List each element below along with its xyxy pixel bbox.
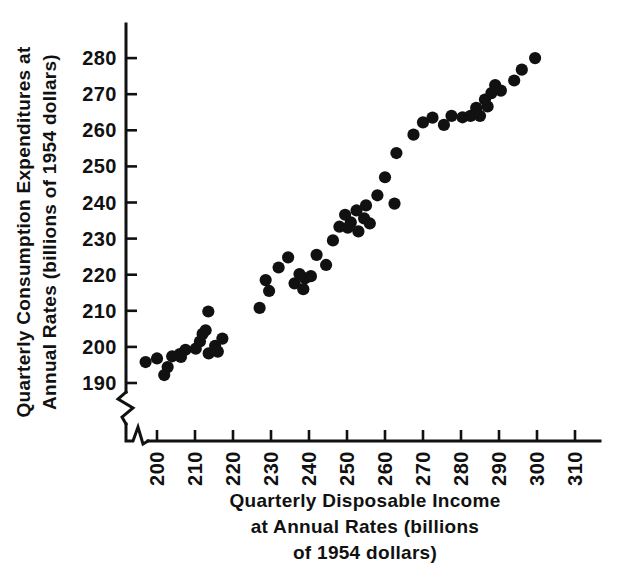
x-tick-label: 220 <box>222 451 244 486</box>
scatter-plot-figure: 1902002102202302402502602702802002102202… <box>0 0 617 579</box>
x-tick-label: 200 <box>146 451 168 486</box>
data-point <box>297 283 309 295</box>
data-point <box>260 274 272 286</box>
y-tick-label: 230 <box>82 228 117 250</box>
data-point <box>390 147 402 159</box>
x-axis-title-line: at Annual Rates (billions <box>251 516 480 537</box>
data-point <box>202 305 214 317</box>
y-tick-label: 210 <box>82 300 117 322</box>
y-axis-title-line: Quarterly Consumption Expenditures at <box>13 46 34 417</box>
x-axis-ticks: 200210220230240250260270280290300310 <box>146 430 586 486</box>
data-point <box>360 199 372 211</box>
y-tick-label: 270 <box>82 83 117 105</box>
data-point <box>516 64 528 76</box>
data-point <box>216 333 228 345</box>
data-point <box>162 361 174 373</box>
x-tick-label: 230 <box>260 451 282 486</box>
data-point <box>426 112 438 124</box>
data-point <box>327 234 339 246</box>
y-tick-label: 190 <box>82 372 117 394</box>
data-point <box>379 171 391 183</box>
x-tick-label: 210 <box>184 451 206 486</box>
data-point <box>282 251 294 263</box>
data-point <box>407 129 419 141</box>
data-point <box>140 356 152 368</box>
y-tick-label: 220 <box>82 264 117 286</box>
y-tick-label: 250 <box>82 155 117 177</box>
data-point <box>474 110 486 122</box>
data-point <box>305 270 317 282</box>
scatter-chart: 1902002102202302402502602702802002102202… <box>0 0 617 579</box>
x-tick-label: 300 <box>526 451 548 486</box>
y-axis-ticks: 190200210220230240250260270280 <box>82 47 137 394</box>
x-tick-label: 240 <box>298 451 320 486</box>
x-tick-label: 280 <box>450 451 472 486</box>
data-point <box>254 302 266 314</box>
x-tick-label: 270 <box>412 451 434 486</box>
x-tick-label: 250 <box>336 451 358 486</box>
x-axis-title: Quarterly Disposable Incomeat Annual Rat… <box>229 490 500 563</box>
y-tick-label: 200 <box>82 336 117 358</box>
data-point <box>263 285 275 297</box>
y-tick-label: 260 <box>82 119 117 141</box>
data-point <box>482 100 494 112</box>
y-tick-label: 280 <box>82 47 117 69</box>
data-point <box>352 225 364 237</box>
x-tick-label: 310 <box>564 451 586 486</box>
x-axis-title-line: Quarterly Disposable Income <box>229 490 500 511</box>
y-axis-title: Quarterly Consumption Expenditures atAnn… <box>13 46 60 417</box>
data-point <box>311 249 323 261</box>
data-point <box>388 197 400 209</box>
data-point <box>212 345 224 357</box>
data-points-group <box>140 52 542 381</box>
data-point <box>364 217 376 229</box>
x-tick-label: 290 <box>488 451 510 486</box>
y-tick-label: 240 <box>82 192 117 214</box>
x-axis-title-line: of 1954 dollars) <box>293 542 437 563</box>
data-point <box>508 74 520 86</box>
x-tick-label: 260 <box>374 451 396 486</box>
data-point <box>200 324 212 336</box>
data-point <box>445 110 457 122</box>
data-point <box>529 52 541 64</box>
data-point <box>320 259 332 271</box>
data-point <box>151 352 163 364</box>
y-axis-break <box>118 392 133 424</box>
data-point <box>371 189 383 201</box>
y-axis-title-line: Annual Rates (billions of 1954 dollars) <box>39 54 60 410</box>
data-point <box>495 84 507 96</box>
data-point <box>273 261 285 273</box>
x-axis-break <box>126 424 148 444</box>
